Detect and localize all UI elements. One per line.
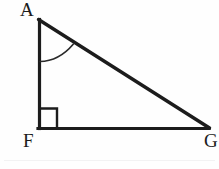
vertex-label-g: G xyxy=(204,131,218,150)
segment-hypotenuse-ag xyxy=(39,20,210,129)
page-baseline-artifact xyxy=(4,160,215,161)
vertex-label-f: F xyxy=(23,131,34,150)
vertex-label-a: A xyxy=(20,0,34,19)
angle-arc-a xyxy=(40,44,73,61)
geometry-figure: A F G xyxy=(0,0,219,169)
right-angle-marker-f xyxy=(40,109,58,129)
